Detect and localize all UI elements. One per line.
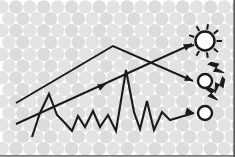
medium-particle xyxy=(44,59,58,73)
medium-particle xyxy=(127,130,141,144)
medium-particle xyxy=(155,36,169,50)
medium-particle xyxy=(106,0,120,14)
medium-particle xyxy=(120,118,134,132)
emitting-particle-disc xyxy=(198,74,212,88)
medium-particle xyxy=(51,24,65,38)
medium-particle xyxy=(99,59,113,73)
medium-particle xyxy=(30,12,44,26)
figure-border-right xyxy=(233,0,235,157)
medium-particle xyxy=(79,95,93,109)
medium-particle xyxy=(113,12,127,26)
medium-particle xyxy=(141,36,155,50)
medium-particle xyxy=(197,12,211,26)
medium-particle xyxy=(106,24,120,38)
medium-particle xyxy=(58,83,72,97)
sun-ray xyxy=(207,52,208,57)
medium-particle xyxy=(79,71,93,85)
medium-particle xyxy=(2,12,16,26)
medium-particle xyxy=(86,36,100,50)
medium-particle xyxy=(37,142,51,156)
medium-particle xyxy=(141,130,155,144)
medium-particle xyxy=(176,24,190,38)
medium-particle xyxy=(58,130,72,144)
medium-particle xyxy=(51,142,65,156)
medium-particle xyxy=(169,12,183,26)
medium-particle xyxy=(93,24,107,38)
medium-particle xyxy=(162,142,176,156)
medium-particle xyxy=(37,24,51,38)
medium-particle xyxy=(197,59,211,73)
medium-particle xyxy=(44,130,58,144)
medium-particle xyxy=(2,36,16,50)
medium-particle xyxy=(204,142,218,156)
medium-particle xyxy=(37,118,51,132)
medium-particle xyxy=(211,12,225,26)
medium-particle xyxy=(79,142,93,156)
medium-particle xyxy=(37,47,51,61)
medium-particle xyxy=(197,130,211,144)
medium-particle xyxy=(37,0,51,14)
medium-particle xyxy=(2,59,16,73)
medium-particle xyxy=(86,12,100,26)
medium-particle xyxy=(106,95,120,109)
medium-particle xyxy=(9,71,23,85)
medium-particle xyxy=(162,24,176,38)
medium-particle xyxy=(120,142,134,156)
medium-particle xyxy=(218,24,232,38)
medium-particle xyxy=(155,83,169,97)
plain-particle-disc xyxy=(198,106,212,120)
medium-particle xyxy=(141,83,155,97)
medium-particle xyxy=(65,0,79,14)
medium-particle xyxy=(120,0,134,14)
medium-particle xyxy=(183,83,197,97)
scattering-diagram-canvas xyxy=(0,0,235,157)
medium-particle xyxy=(93,95,107,109)
medium-particle xyxy=(169,130,183,144)
medium-particle xyxy=(23,142,37,156)
medium-particle xyxy=(211,130,225,144)
medium-particle xyxy=(9,118,23,132)
medium-particle xyxy=(9,142,23,156)
medium-particle xyxy=(141,12,155,26)
medium-particle xyxy=(134,24,148,38)
medium-particle xyxy=(148,142,162,156)
medium-particle xyxy=(169,83,183,97)
medium-particle xyxy=(44,36,58,50)
sun-disc xyxy=(196,32,215,51)
medium-particle xyxy=(51,0,65,14)
medium-particle xyxy=(99,12,113,26)
medium-particle xyxy=(72,36,86,50)
medium-particle xyxy=(58,36,72,50)
medium-particle xyxy=(23,0,37,14)
medium-particle xyxy=(16,59,30,73)
medium-particle xyxy=(16,83,30,97)
medium-particle xyxy=(134,0,148,14)
medium-particle xyxy=(9,24,23,38)
medium-particle xyxy=(190,142,204,156)
medium-particle xyxy=(44,12,58,26)
medium-particle xyxy=(37,71,51,85)
medium-particle xyxy=(58,12,72,26)
medium-particle xyxy=(176,0,190,14)
medium-particle xyxy=(72,130,86,144)
medium-particle xyxy=(113,83,127,97)
medium-particle xyxy=(218,95,232,109)
medium-particle xyxy=(183,130,197,144)
medium-particle xyxy=(106,142,120,156)
medium-particle xyxy=(148,71,162,85)
medium-particle xyxy=(2,83,16,97)
medium-particle xyxy=(9,0,23,14)
medium-particle xyxy=(176,118,190,132)
medium-particle xyxy=(190,0,204,14)
medium-particle xyxy=(72,12,86,26)
medium-particle xyxy=(148,24,162,38)
medium-particle xyxy=(204,0,218,14)
medium-particle xyxy=(169,36,183,50)
medium-particle xyxy=(23,71,37,85)
medium-particle xyxy=(218,118,232,132)
medium-particle xyxy=(162,0,176,14)
medium-particle xyxy=(16,36,30,50)
detector-plain[interactable] xyxy=(198,106,212,120)
sun-ray xyxy=(207,24,208,29)
medium-particle xyxy=(30,59,44,73)
